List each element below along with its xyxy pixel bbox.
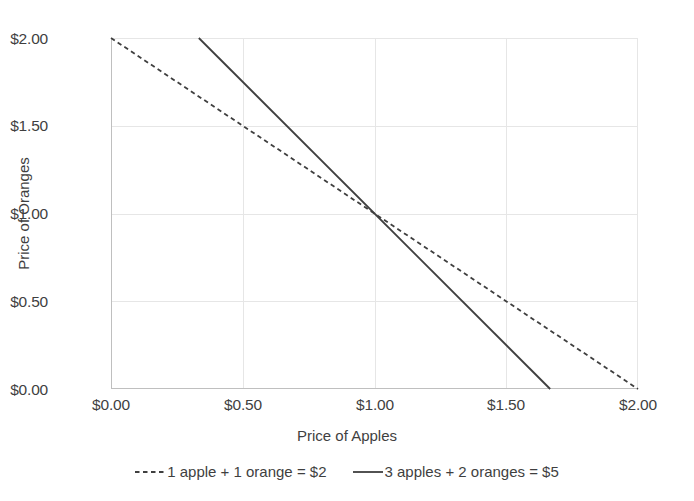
legend-solid-line-icon [353, 466, 383, 478]
plot-area [111, 38, 638, 389]
legend-label-0: 1 apple + 1 orange = $2 [167, 463, 326, 480]
x-axis-title: Price of Apples [0, 427, 694, 444]
series-layer [111, 38, 638, 389]
x-tick-label-4: $2.00 [619, 396, 657, 414]
legend-label-1: 3 apples + 2 oranges = $5 [385, 463, 559, 480]
chart-legend: 1 apple + 1 orange = $2 3 apples + 2 ora… [0, 463, 694, 480]
y-tick-label-3: $1.50 [10, 117, 48, 135]
x-tick-label-0: $0.00 [92, 396, 130, 414]
y-tick-label-0: $0.00 [10, 381, 48, 399]
chart-container: Price of Oranges $2.00 $1.50 $1.00 $0.50… [0, 0, 694, 501]
series-line-3-apples-2-oranges [199, 38, 550, 389]
x-tick-label-3: $1.50 [487, 396, 525, 414]
legend-item-3-apples-2-oranges[interactable]: 3 apples + 2 oranges = $5 [353, 463, 559, 480]
x-tick-label-1: $0.50 [224, 396, 262, 414]
x-tick-label-2: $1.00 [356, 396, 394, 414]
y-tick-label-4: $2.00 [10, 30, 48, 48]
legend-dotted-line-icon [135, 466, 165, 478]
legend-item-1-apple-1-orange[interactable]: 1 apple + 1 orange = $2 [135, 463, 326, 480]
y-tick-label-2: $1.00 [10, 205, 48, 223]
y-tick-label-1: $0.50 [10, 293, 48, 311]
